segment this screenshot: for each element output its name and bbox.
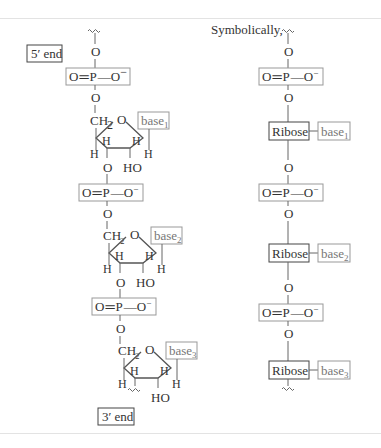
five-prime-end-label: 5′ end [31, 46, 63, 61]
svg-text:3: 3 [192, 350, 197, 360]
svg-text:H: H [145, 249, 154, 263]
svg-text:O: O [116, 275, 125, 290]
svg-text:base: base [321, 363, 344, 378]
svg-text:2: 2 [177, 235, 182, 245]
svg-text:H: H [132, 134, 141, 148]
svg-text:O: O [117, 112, 126, 127]
svg-text:2: 2 [344, 253, 349, 263]
wavy-bond-bottom-icon [128, 389, 140, 392]
svg-text:H: H [118, 377, 127, 391]
bridge-oxygen: O [284, 326, 293, 341]
bridge-oxygen: O [91, 44, 100, 59]
wavy-bond-top-icon [282, 30, 294, 33]
phosphate-symbol-label-3: O═P—O− [262, 304, 318, 320]
svg-text:H: H [103, 262, 112, 276]
svg-text:H: H [130, 364, 139, 378]
svg-text:CH: CH [103, 228, 121, 243]
svg-text:base: base [154, 228, 177, 243]
svg-text:H: H [102, 134, 111, 148]
svg-text:HO: HO [123, 160, 142, 175]
ribose-label-1: Ribose [272, 124, 308, 139]
svg-text:HO: HO [151, 390, 170, 405]
svg-text:H: H [144, 147, 153, 161]
ribose-label-3: Ribose [272, 363, 308, 378]
bridge-oxygen: O [284, 160, 293, 175]
wavy-bond-bottom-icon [282, 388, 294, 391]
svg-text:base: base [141, 113, 164, 128]
svg-text:O: O [130, 227, 139, 242]
symbolically-label: Symbolically, [211, 22, 283, 37]
svg-text:H: H [157, 262, 166, 276]
three-prime-end-label: 3′ end [102, 409, 134, 424]
bridge-oxygen: O [284, 44, 293, 59]
bridge-oxygen: O [284, 280, 293, 295]
svg-text:base: base [169, 343, 192, 358]
svg-text:H: H [160, 364, 169, 378]
svg-text:1: 1 [344, 131, 349, 141]
svg-text:O: O [145, 342, 154, 357]
right-chain: Symbolically, O O═P—O− O Ribose base 1 O… [211, 22, 350, 391]
bridge-oxygen: O [116, 321, 125, 336]
svg-text:H: H [90, 147, 99, 161]
rna-structure-diagram: O 5′ end O═P—O− O CH 2 O base 1 H H H H [0, 0, 381, 448]
svg-text:O: O [103, 160, 112, 175]
svg-text:HO: HO [136, 275, 155, 290]
phosphate-label-2: O═P—O− [82, 184, 138, 200]
wavy-bond-top-icon [88, 30, 100, 33]
svg-text:3: 3 [344, 370, 349, 380]
ribose-ring-3: CH 2 O base 3 H H H H HO [118, 342, 197, 405]
svg-text:base: base [321, 246, 344, 261]
svg-text:base: base [321, 124, 344, 139]
svg-text:1: 1 [164, 120, 169, 130]
svg-text:CH: CH [90, 113, 108, 128]
left-chain: O 5′ end O═P—O− O CH 2 O base 1 H H H H [27, 30, 197, 426]
phosphate-symbol-label-2: O═P—O− [262, 184, 318, 200]
bridge-oxygen: O [284, 90, 293, 105]
phosphate-label-3: O═P—O− [95, 298, 151, 314]
svg-text:H: H [172, 377, 181, 391]
ribose-ring-2: CH 2 O base 2 H H H H O HO [103, 227, 182, 290]
bridge-oxygen: O [284, 206, 293, 221]
svg-text:H: H [115, 249, 124, 263]
bridge-oxygen: O [91, 90, 100, 105]
phosphate-symbol-label-1: O═P—O− [262, 68, 318, 84]
bridge-oxygen: O [103, 206, 112, 221]
svg-text:CH: CH [118, 343, 136, 358]
ribose-ring-1: CH 2 O base 1 H H H H O HO [90, 112, 169, 175]
ribose-label-2: Ribose [272, 246, 308, 261]
